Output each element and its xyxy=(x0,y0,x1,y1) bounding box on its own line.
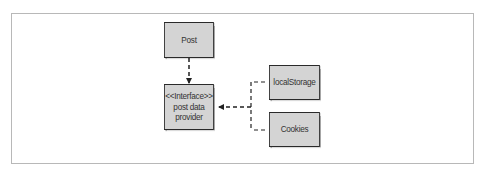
node-post-data-provider-interface: <<Interface>> post data provider xyxy=(164,84,214,130)
diagram-frame xyxy=(11,13,474,164)
node-localstorage: localStorage xyxy=(269,65,320,100)
node-cookies-label: Cookies xyxy=(281,124,309,135)
node-post: Post xyxy=(164,22,214,58)
node-post-label: Post xyxy=(181,35,196,46)
node-interface-name-line2: provider xyxy=(175,112,202,123)
node-cookies: Cookies xyxy=(269,112,320,147)
node-localstorage-label: localStorage xyxy=(273,77,315,88)
